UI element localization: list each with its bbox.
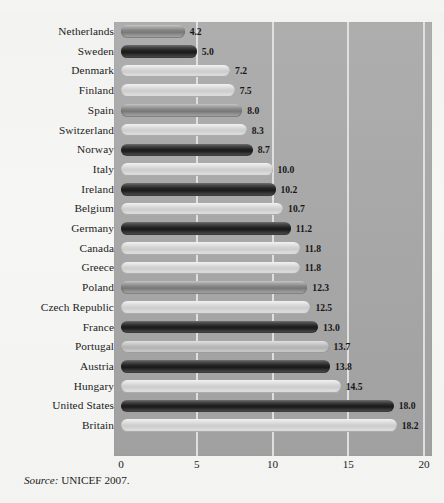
bar-row: Spain8.0 xyxy=(0,101,444,121)
bar[interactable] xyxy=(121,380,341,393)
bar-container: 8.0 xyxy=(114,101,444,121)
cut-off-title-strip xyxy=(0,0,444,13)
bar-value-label: 18.0 xyxy=(399,396,416,416)
bar-row: Greece11.8 xyxy=(0,258,444,278)
bar-row: Finland7.5 xyxy=(0,81,444,101)
bar[interactable] xyxy=(121,65,230,78)
category-label: Ireland xyxy=(0,180,114,200)
bar-container: 14.5 xyxy=(114,377,444,397)
bar-value-label: 11.8 xyxy=(305,239,321,259)
bar[interactable] xyxy=(121,262,300,275)
category-label: Hungary xyxy=(0,377,114,397)
bar[interactable] xyxy=(121,104,242,117)
x-tick-label-15: 15 xyxy=(343,458,354,470)
source-note: Source: UNICEF 2007. xyxy=(24,474,130,486)
category-label: Portugal xyxy=(0,337,114,357)
bar[interactable] xyxy=(121,203,283,216)
bar-value-label: 4.2 xyxy=(190,22,202,42)
bar-value-label: 5.0 xyxy=(202,42,214,62)
bar-value-label: 10.2 xyxy=(281,180,298,200)
category-label: Poland xyxy=(0,278,114,298)
x-tick-label-20: 20 xyxy=(418,458,429,470)
category-label: Finland xyxy=(0,81,114,101)
bar-value-label: 10.0 xyxy=(278,160,295,180)
bar-container: 7.2 xyxy=(114,61,444,81)
bar-container: 13.0 xyxy=(114,318,444,338)
bar[interactable] xyxy=(121,301,310,314)
bar-value-label: 13.7 xyxy=(334,337,351,357)
category-label: Greece xyxy=(0,258,114,278)
bar-value-label: 13.8 xyxy=(335,357,352,377)
category-label: United States xyxy=(0,396,114,416)
bar-row: Belgium10.7 xyxy=(0,199,444,219)
bar-container: 13.8 xyxy=(114,357,444,377)
bar-value-label: 8.0 xyxy=(247,101,259,121)
bar[interactable] xyxy=(121,341,329,354)
category-label: Italy xyxy=(0,160,114,180)
bar-row: Switzerland8.3 xyxy=(0,121,444,141)
bar-container: 8.7 xyxy=(114,140,444,160)
bar-container: 10.7 xyxy=(114,199,444,219)
category-label: Austria xyxy=(0,357,114,377)
bar[interactable] xyxy=(121,45,197,58)
bar-chart: Netherlands4.2Sweden5.0Denmark7.2Finland… xyxy=(0,13,444,460)
bar[interactable] xyxy=(121,281,307,294)
bar-row: Canada11.8 xyxy=(0,239,444,259)
bar-container: 11.2 xyxy=(114,219,444,239)
bar[interactable] xyxy=(121,360,330,373)
bar-container: 7.5 xyxy=(114,81,444,101)
x-tick-label-0: 0 xyxy=(118,458,124,470)
bar-row: Norway8.7 xyxy=(0,140,444,160)
bar[interactable] xyxy=(121,163,273,176)
x-tick-label-5: 5 xyxy=(194,458,200,470)
bar[interactable] xyxy=(121,419,397,432)
bar[interactable] xyxy=(121,222,291,235)
source-value: UNICEF 2007. xyxy=(61,474,129,486)
bar-row: Hungary14.5 xyxy=(0,377,444,397)
bar-value-label: 12.3 xyxy=(312,278,329,298)
bar-value-label: 11.8 xyxy=(305,258,321,278)
bar-container: 4.2 xyxy=(114,22,444,42)
bar-row: Poland12.3 xyxy=(0,278,444,298)
category-label: Germany xyxy=(0,219,114,239)
category-label: Canada xyxy=(0,239,114,259)
category-label: Belgium xyxy=(0,199,114,219)
category-label: Czech Republic xyxy=(0,298,114,318)
bar-row: Italy10.0 xyxy=(0,160,444,180)
bar-value-label: 12.5 xyxy=(315,298,332,318)
bar[interactable] xyxy=(121,321,318,334)
bar[interactable] xyxy=(121,400,394,413)
bar-value-label: 8.3 xyxy=(252,121,264,141)
bar-value-label: 11.2 xyxy=(296,219,312,239)
bar-value-label: 7.2 xyxy=(235,61,247,81)
bar-value-label: 14.5 xyxy=(346,377,363,397)
bar-container: 10.2 xyxy=(114,180,444,200)
category-label: Netherlands xyxy=(0,22,114,42)
category-label: France xyxy=(0,318,114,338)
bar[interactable] xyxy=(121,84,235,97)
bar[interactable] xyxy=(121,242,300,255)
bar-container: 18.2 xyxy=(114,416,444,436)
bar-container: 12.3 xyxy=(114,278,444,298)
bar-row: Ireland10.2 xyxy=(0,180,444,200)
source-label: Source: xyxy=(24,474,58,486)
bar-value-label: 18.2 xyxy=(402,416,419,436)
bar-container: 10.0 xyxy=(114,160,444,180)
bar-row: Austria13.8 xyxy=(0,357,444,377)
x-tick-label-10: 10 xyxy=(267,458,278,470)
bar-row: France13.0 xyxy=(0,318,444,338)
bar[interactable] xyxy=(121,144,253,157)
bar-value-label: 8.7 xyxy=(258,140,270,160)
bar-row: Britain18.2 xyxy=(0,416,444,436)
bar-container: 5.0 xyxy=(114,42,444,62)
bar[interactable] xyxy=(121,183,276,196)
bar[interactable] xyxy=(121,25,185,38)
bar-value-label: 10.7 xyxy=(288,199,305,219)
bar-container: 18.0 xyxy=(114,396,444,416)
bar-row: Netherlands4.2 xyxy=(0,22,444,42)
bar[interactable] xyxy=(121,124,247,137)
category-label: Denmark xyxy=(0,61,114,81)
bar-container: 8.3 xyxy=(114,121,444,141)
category-label: Norway xyxy=(0,140,114,160)
bar-row: Germany11.2 xyxy=(0,219,444,239)
